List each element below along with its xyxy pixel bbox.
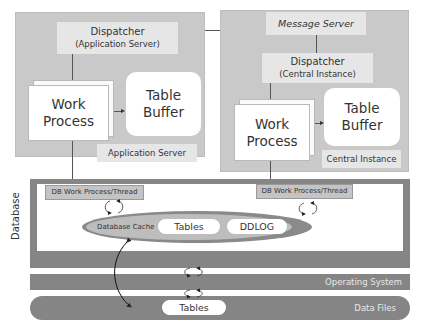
- cycle-icon-os-datafiles: [185, 290, 203, 297]
- cycle-icon-right-dbwp: [299, 203, 317, 214]
- cycle-icon-left-dbwp: [105, 201, 123, 213]
- cycle-icon-db-os: [185, 268, 203, 276]
- cache-to-datafiles-arrow-icon: [115, 242, 131, 307]
- diagram-arrows-layer: [0, 0, 422, 328]
